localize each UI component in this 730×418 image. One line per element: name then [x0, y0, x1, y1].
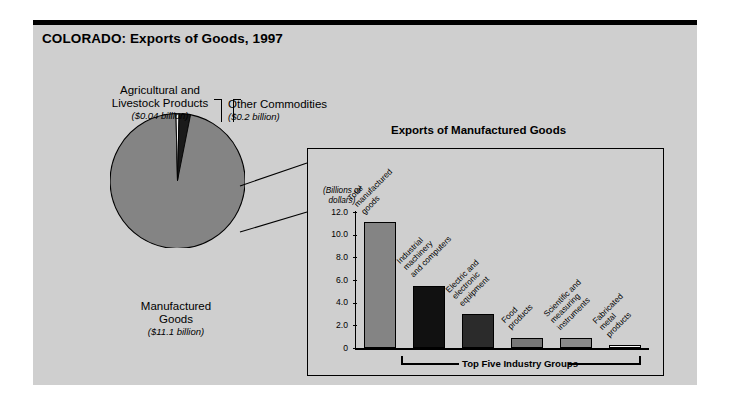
bar-3 [462, 314, 494, 348]
pie-label-manufactured-goods: Manufactured Goods ($11.1 billion) [96, 300, 256, 338]
exports-of-goods-figure: COLORADO: Exports of Goods, 1997 Agricul… [0, 0, 730, 418]
y-axis-tick-label: 2.0 [312, 321, 348, 330]
bar-5 [560, 338, 592, 348]
x-axis-line [355, 348, 649, 350]
pie-label-other-line1: Other Commodities [228, 98, 368, 111]
panel-top-rule [33, 20, 697, 25]
pie-label-other-amount: ($0.2 billion) [228, 111, 368, 123]
pie-label-agricultural-line1: Agricultural and [84, 84, 236, 97]
pie-chart-svg [110, 113, 245, 248]
y-axis-tick-mark [353, 212, 357, 213]
y-axis-tick-mark [353, 325, 357, 326]
leader-line-agricultural [221, 99, 222, 122]
page-title: COLORADO: Exports of Goods, 1997 [42, 31, 283, 46]
pie-label-manufactured-line2: Goods [96, 313, 256, 326]
pie-label-other-commodities: Other Commodities ($0.2 billion) [228, 98, 368, 123]
y-axis-tick-mark [353, 257, 357, 258]
y-axis-tick-label: 10.0 [312, 230, 348, 239]
y-axis-tick-mark [353, 235, 357, 236]
inset-chart-title: Exports of Manufactured Goods [391, 124, 621, 136]
bracket-label: Top Five Industry Groups [462, 358, 578, 369]
y-axis-tick-mark [353, 348, 357, 349]
bracket-tick-right [639, 356, 641, 363]
leader-line-agricultural-elbow [214, 99, 222, 100]
leader-line-other-elbow [233, 99, 241, 100]
pie-label-manufactured-line1: Manufactured [96, 300, 256, 313]
leader-line-other [233, 99, 234, 122]
pie-label-manufactured-amount: ($11.1 billion) [96, 326, 256, 338]
bracket-horizontal-right [568, 363, 641, 365]
bracket-horizontal-left [401, 363, 459, 365]
y-axis-tick-mark [353, 303, 357, 304]
pie-chart [110, 113, 245, 248]
pie-label-agricultural-livestock: Agricultural and Livestock Products ($0.… [84, 84, 236, 122]
y-axis-tick-label: 6.0 [312, 276, 348, 285]
bar-2 [413, 286, 445, 348]
y-axis-tick-mark [353, 280, 357, 281]
y-axis-tick-label: 8.0 [312, 253, 348, 262]
y-axis-tick-label: 0 [312, 344, 348, 353]
bar-6 [609, 345, 641, 348]
bar-1 [364, 222, 396, 348]
bar-4 [511, 338, 543, 348]
bracket-tick-left [401, 356, 403, 363]
y-axis-tick-label: 4.0 [312, 298, 348, 307]
pie-label-agricultural-amount: ($0.04 billion) [84, 110, 236, 122]
y-axis-tick-label: 12.0 [312, 208, 348, 217]
